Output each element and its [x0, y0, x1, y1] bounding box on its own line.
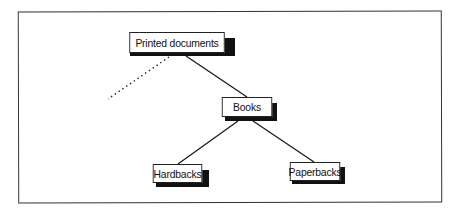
- node-hardbacks: Hardbacks: [153, 164, 203, 183]
- node-paperbacks: Paperbacks: [290, 162, 340, 181]
- node-books: Books: [222, 97, 272, 117]
- edge-root-books: [186, 56, 247, 97]
- node-printed-documents: Printed documents: [129, 32, 224, 53]
- edge-root-elided-dotted: [108, 57, 169, 99]
- edge-books-paperbacks: [253, 121, 314, 162]
- edge-books-hardbacks: [178, 121, 238, 164]
